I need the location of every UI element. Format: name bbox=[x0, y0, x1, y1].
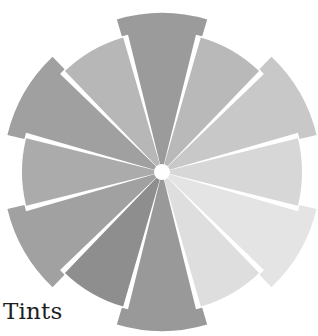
tint-color-wheel bbox=[0, 0, 318, 336]
wheel-center-dot bbox=[154, 164, 170, 180]
diagram-caption: Tints bbox=[3, 300, 63, 323]
